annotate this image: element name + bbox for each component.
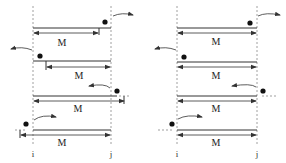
span-label: M <box>212 36 221 47</box>
point-marker <box>114 88 119 93</box>
span-label: M <box>58 37 67 48</box>
boundary-i-label: i <box>176 149 179 159</box>
point-marker <box>181 54 186 59</box>
point-marker <box>23 121 28 126</box>
span-label: M <box>75 70 84 81</box>
span-label: M <box>212 137 221 148</box>
point-marker <box>260 88 265 93</box>
diagram-canvas: M M M M <box>0 0 286 163</box>
row-3: M <box>33 85 130 114</box>
motion-arrow-icon <box>34 116 56 120</box>
row-4: M <box>158 116 257 148</box>
point-marker <box>169 121 174 126</box>
row-3: M <box>177 85 276 114</box>
point-marker <box>102 19 107 24</box>
row-1: M <box>177 14 280 47</box>
panel-left: M M M M <box>11 6 133 159</box>
point-marker <box>247 20 252 25</box>
boundary-j-label: j <box>255 149 259 159</box>
boundary-i-label: i <box>32 149 35 159</box>
span-label: M <box>58 137 67 148</box>
motion-arrow-icon <box>258 14 280 16</box>
span-label: M <box>74 103 83 114</box>
motion-arrow-icon <box>113 14 133 16</box>
motion-arrow-icon <box>232 85 256 87</box>
span-label: M <box>212 70 221 81</box>
row-4: M <box>15 116 111 148</box>
boundary-j-label: j <box>109 149 113 159</box>
row-2: M <box>155 48 257 81</box>
panel-right: M M M M i <box>155 6 280 159</box>
point-marker <box>37 53 42 58</box>
motion-arrow-icon <box>11 48 32 50</box>
motion-arrow-icon <box>178 116 202 119</box>
motion-arrow-icon <box>89 85 110 88</box>
row-2: M <box>11 48 111 81</box>
motion-arrow-icon <box>155 48 176 50</box>
span-label: M <box>212 103 221 114</box>
row-1: M <box>33 14 133 48</box>
